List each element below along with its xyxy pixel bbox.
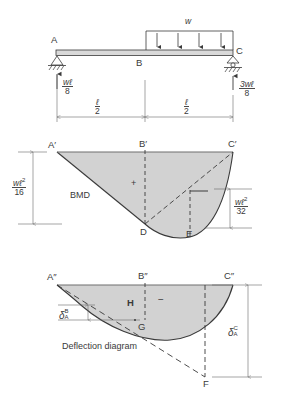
roller-support: [224, 56, 242, 72]
bmd-point-D: D: [140, 226, 147, 237]
bmd-dim-left-sup: 2: [22, 177, 25, 183]
reaction-left-label: wℓ 8: [62, 77, 73, 96]
bmd-dim-right-num: wℓ: [235, 197, 244, 207]
reaction-right-label: 3wℓ 8: [239, 79, 255, 98]
reaction-right-den: 8: [239, 89, 255, 98]
bmd-point-C-prime: C′: [228, 138, 237, 149]
beam-point-A: A: [51, 34, 57, 45]
bmd-dim-left-label: wℓ2 16: [12, 177, 26, 197]
delta-c-sub: A: [234, 332, 238, 338]
deflection-negative-sign: −: [158, 294, 164, 305]
bmd-dim-left-num: wℓ: [13, 178, 22, 188]
point-dot-G: [134, 319, 136, 321]
bmd-point-E: E: [186, 228, 192, 239]
beam-loading-group: [48, 31, 242, 122]
beam-point-C: C: [236, 45, 243, 56]
load-intensity-label: w: [185, 16, 191, 26]
deflection-point-A-dprime: A″: [47, 271, 57, 282]
bmd-group: [18, 150, 252, 238]
deflection-point-G: G: [138, 321, 145, 332]
span-left-label: ℓ 2: [95, 97, 100, 116]
delta-c-label: δCA: [228, 322, 238, 340]
bmd-dim-right-den: 32: [234, 207, 248, 216]
figure-canvas: A B C w wℓ 8 3wℓ 8 ℓ 2 ℓ 2 A′ B′ C′ D E …: [0, 0, 287, 405]
bmd-dim-right-label: wℓ2 32: [234, 196, 248, 216]
deflection-point-C-dprime: C″: [224, 270, 234, 281]
bmd-dim-left-den: 16: [12, 188, 26, 197]
delta-b-label: δBA: [59, 305, 69, 323]
span-right-den: 2: [184, 107, 189, 116]
beam-member: [56, 50, 233, 56]
pin-support: [48, 56, 66, 70]
deflection-point-B-dprime: B″: [138, 270, 148, 281]
deflection-caption: Deflection diagram: [62, 341, 137, 351]
bmd-dim-right-sup: 2: [244, 196, 247, 202]
reaction-left-den: 8: [62, 87, 73, 96]
bmd-point-B-prime: B′: [139, 138, 147, 149]
span-left-den: 2: [95, 107, 100, 116]
distributed-load: [146, 31, 233, 50]
span-dimension-group: [57, 75, 233, 122]
beam-point-B: B: [136, 57, 142, 68]
deflection-point-F: F: [203, 378, 209, 389]
deflection-point-H: H: [127, 297, 134, 308]
span-right-label: ℓ 2: [184, 97, 189, 116]
bmd-label: BMD: [70, 190, 90, 200]
delta-b-sub: A: [65, 315, 69, 321]
load-arrows: [157, 33, 221, 47]
bmd-positive-sign: +: [131, 178, 136, 188]
bmd-point-A-prime: A′: [48, 139, 56, 150]
